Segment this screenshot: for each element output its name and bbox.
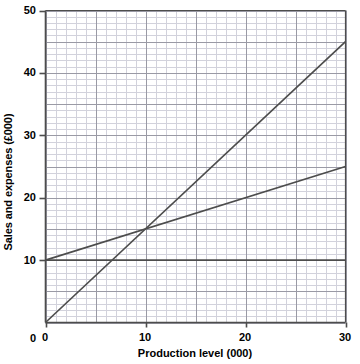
- grid-minor: [46, 11, 346, 323]
- data-series: [46, 42, 346, 323]
- x-tick-label: 30: [325, 331, 360, 343]
- x-axis-title: Production level (000): [45, 346, 345, 360]
- grid-major: [46, 11, 347, 324]
- series-sales: [46, 42, 346, 323]
- x-tick-label: 10: [125, 331, 165, 343]
- x-tick-label: 20: [225, 331, 265, 343]
- axis-ticks: [40, 12, 347, 328]
- series-total-cost: [46, 167, 346, 261]
- axis-lines: [46, 11, 346, 323]
- chart-plot-area: [0, 0, 360, 364]
- y-axis-title: Sales and expenses (£000): [0, 0, 16, 364]
- break-even-chart: 50 40 30 20 10 0 0 10 20 30 Production l…: [0, 0, 360, 364]
- x-tick-label: 0: [25, 331, 65, 343]
